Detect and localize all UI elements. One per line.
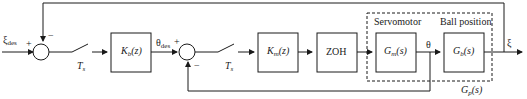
block-diagram-lines [0, 0, 527, 99]
theta-label: θ [426, 39, 431, 50]
sampler-switch-1 [72, 44, 88, 52]
zoh-block: ZOH [326, 46, 347, 57]
outer-plus-sign: + [26, 38, 32, 49]
plant-label: Gp(s) [461, 84, 482, 97]
Km-block: Km(z) [267, 45, 289, 58]
inner-plus-sign: + [174, 36, 180, 47]
Gb-block: Gb(s) [453, 45, 474, 58]
sampler-2-label: Ts [225, 60, 233, 73]
inner-minus-sign: − [194, 60, 200, 71]
outer-summing-junction [33, 44, 49, 60]
Gm-block: Gm(s) [384, 45, 407, 58]
ball-position-label: Ball position [440, 16, 491, 27]
sampler-switch-2 [218, 44, 234, 52]
inner-summing-junction [179, 44, 195, 60]
theta-des-label: θdes [156, 37, 170, 50]
Kb-block: Kb(z) [121, 45, 142, 58]
input-label: ξdes [3, 34, 17, 47]
servomotor-label: Servomotor [374, 16, 421, 27]
sampler-1-label: Ts [77, 60, 85, 73]
outer-minus-sign: − [48, 30, 54, 41]
output-label: ξ [507, 37, 511, 48]
